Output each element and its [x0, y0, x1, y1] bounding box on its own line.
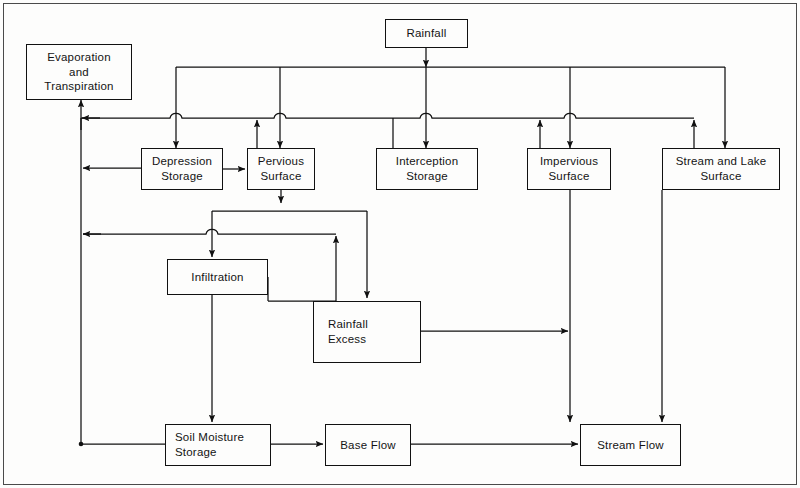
node-soil-moisture-storage[interactable]: Soil Moisture Storage: [165, 424, 271, 466]
node-impervious-surface-label: Impervious Surface: [538, 154, 600, 183]
node-stream-flow[interactable]: Stream Flow: [580, 424, 681, 466]
node-evaporation[interactable]: Evaporation and Transpiration: [26, 44, 132, 100]
node-impervious-surface[interactable]: Impervious Surface: [527, 148, 611, 190]
spine-corner-dot: [79, 442, 84, 447]
hydrologic-flow-diagram: Evaporation and Transpiration Rainfall D…: [0, 0, 800, 488]
node-pervious-surface-label: Pervious Surface: [256, 154, 306, 183]
node-stream-flow-label: Stream Flow: [595, 438, 666, 453]
node-rainfall[interactable]: Rainfall: [385, 19, 468, 48]
node-evaporation-label: Evaporation and Transpiration: [42, 50, 115, 94]
node-infiltration-label: Infiltration: [189, 270, 245, 285]
node-depression-storage-label: Depression Storage: [150, 154, 214, 183]
node-base-flow[interactable]: Base Flow: [325, 424, 411, 466]
node-rainfall-excess[interactable]: Rainfall Excess: [313, 301, 421, 363]
node-soil-moisture-storage-label: Soil Moisture Storage: [166, 430, 270, 459]
node-base-flow-label: Base Flow: [338, 438, 398, 453]
node-depression-storage[interactable]: Depression Storage: [141, 148, 223, 190]
node-stream-and-lake-surface[interactable]: Stream and Lake Surface: [662, 148, 780, 190]
node-infiltration[interactable]: Infiltration: [167, 259, 268, 295]
node-interception-storage-label: Interception Storage: [394, 154, 461, 183]
node-rainfall-excess-label: Rainfall Excess: [314, 317, 420, 346]
node-rainfall-label: Rainfall: [405, 26, 449, 41]
node-stream-and-lake-surface-label: Stream and Lake Surface: [674, 154, 769, 183]
soil-return-bus-line: [83, 229, 336, 234]
node-pervious-surface[interactable]: Pervious Surface: [247, 148, 315, 190]
evaporation-bus-line: [81, 113, 694, 118]
node-interception-storage[interactable]: Interception Storage: [376, 148, 478, 190]
